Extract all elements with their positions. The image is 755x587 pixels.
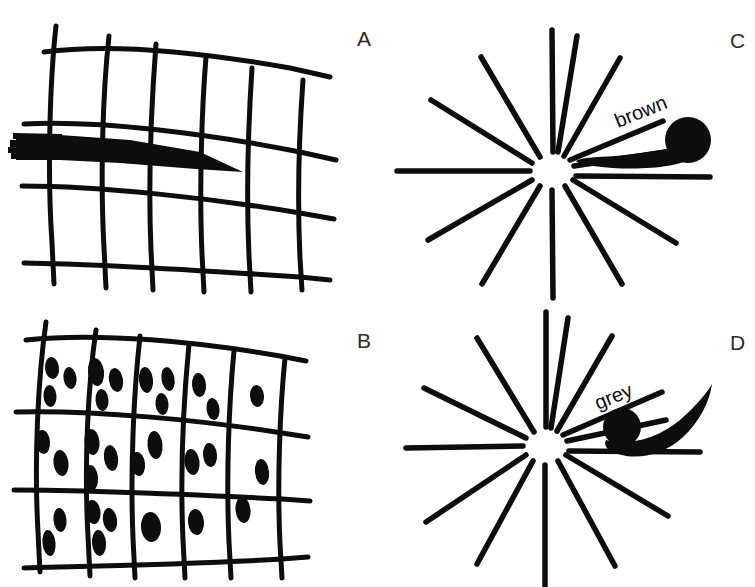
panel-d: grey D xyxy=(380,300,755,587)
panel-letter-c: C xyxy=(730,30,746,51)
panel-a-drawing xyxy=(0,0,350,300)
figure-canvas: A xyxy=(0,0,755,587)
panel-c-blob xyxy=(576,117,711,169)
panel-a-streak xyxy=(8,133,243,172)
panel-c-drawing: brown xyxy=(380,0,755,300)
panel-c-blob-label: brown xyxy=(611,91,670,132)
panel-a: A xyxy=(0,0,350,300)
panel-c: brown C xyxy=(380,0,755,300)
panel-b: B xyxy=(0,300,350,587)
panel-letter-a: A xyxy=(357,28,372,49)
panel-b-spots xyxy=(35,356,270,556)
panel-b-drawing xyxy=(0,300,350,587)
panel-d-drawing: grey xyxy=(380,300,755,587)
panel-letter-b: B xyxy=(357,330,372,351)
panel-letter-d: D xyxy=(730,332,746,353)
